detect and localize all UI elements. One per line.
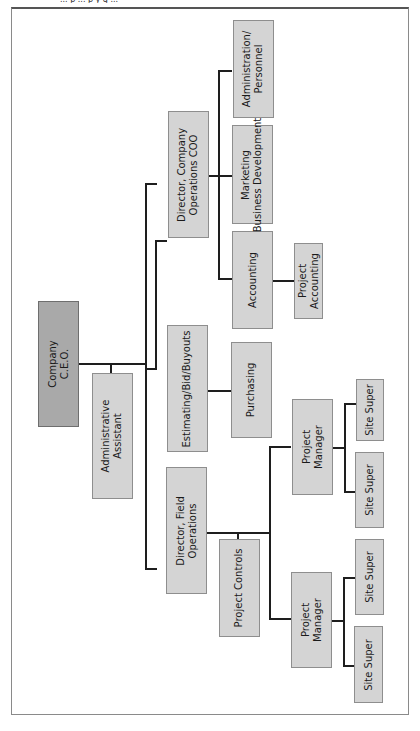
- node-label: Director, Field Operations: [175, 496, 199, 566]
- node-label: Administrative Assistant: [101, 400, 125, 473]
- connector: [145, 568, 157, 570]
- node-label: Project Manager: [301, 425, 325, 469]
- connector: [218, 70, 232, 72]
- node-admin-assistant: Administrative Assistant: [92, 373, 133, 499]
- node-administration: Administration/ Personnel: [233, 20, 274, 118]
- node-accounting: Accounting: [232, 231, 273, 329]
- node-site-super-4: Site Super: [354, 626, 383, 703]
- node-label: Company C.E.O.: [47, 340, 71, 388]
- connector: [344, 403, 346, 493]
- node-ceo: Company C.E.O.: [38, 301, 79, 427]
- node-site-super-3: Site Super: [355, 539, 384, 615]
- connector: [207, 390, 232, 392]
- connector: [145, 183, 147, 568]
- node-project-controls: Project Controls: [219, 539, 260, 637]
- node-project-manager-1: Project Manager: [292, 399, 333, 495]
- node-label: Site Super: [364, 464, 376, 516]
- connector: [343, 577, 345, 667]
- node-site-super-2: Site Super: [355, 452, 384, 528]
- connector: [218, 278, 232, 280]
- node-project-accounting: Project Accounting: [294, 243, 323, 319]
- node-label: Site Super: [363, 639, 375, 691]
- node-estimating: Estimating/Bid/Buyouts: [167, 325, 208, 452]
- node-marketing: Marketing Business Development: [232, 125, 273, 224]
- node-project-manager-2: Project Manager: [291, 572, 332, 668]
- connector: [269, 446, 291, 448]
- connector: [155, 240, 167, 242]
- node-label: Site Super: [364, 384, 376, 436]
- node-label: Estimating/Bid/Buyouts: [182, 330, 194, 447]
- connector: [218, 70, 220, 280]
- connector: [145, 183, 157, 185]
- node-purchasing: Purchasing: [231, 342, 272, 438]
- node-label: Accounting: [247, 252, 259, 308]
- cropped-caption: ... p ... p y g ...: [60, 0, 240, 3]
- node-label: Project Manager: [300, 598, 324, 642]
- node-label: Site Super: [364, 551, 376, 603]
- connector: [110, 363, 112, 373]
- node-site-super-1: Site Super: [356, 379, 384, 441]
- connector: [269, 618, 291, 620]
- node-label: Administration/ Personnel: [242, 31, 266, 108]
- connector: [78, 363, 146, 365]
- connector: [155, 240, 157, 370]
- node-label: Director, Company Operations COO: [177, 127, 201, 221]
- node-director-coo: Director, Company Operations COO: [168, 111, 209, 238]
- node-label: Project Accounting: [297, 253, 321, 309]
- node-label: Project Controls: [234, 549, 246, 628]
- node-label: Marketing Business Development: [241, 117, 265, 232]
- connector: [269, 446, 271, 620]
- node-director-field-ops: Director, Field Operations: [166, 467, 207, 594]
- node-label: Purchasing: [246, 363, 258, 418]
- connector: [272, 280, 294, 282]
